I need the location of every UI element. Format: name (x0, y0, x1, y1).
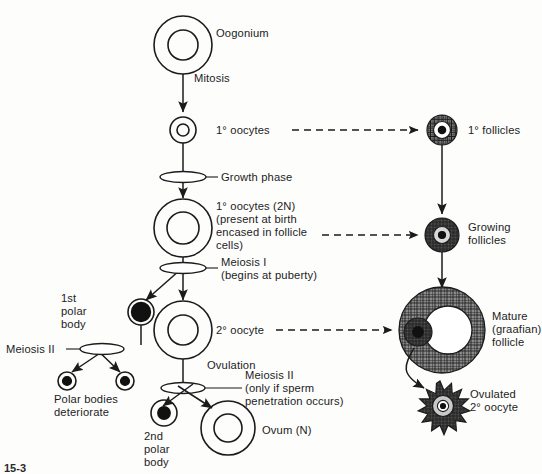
label-first-polar-body-line2: polar (61, 305, 87, 317)
cell-polar-body-deteriorating-2 (116, 372, 134, 390)
growing-follicle-nucleus (439, 232, 446, 239)
arrow-meiosis-1-to-polar-body (146, 270, 180, 300)
oogonium-nucleus (168, 30, 198, 60)
primary-oocyte-2n-nucleus (167, 212, 199, 244)
cell-polar-body-deteriorating-1 (58, 372, 76, 390)
label-meiosis-2-right-sub2: penetration occurs) (245, 395, 344, 407)
marker-growth-phase (160, 172, 206, 183)
secondary-oocyte-outer-membrane (154, 301, 212, 359)
label-second-polar-body-line2: polar (144, 443, 170, 455)
label-ovum: Ovum (N) (262, 424, 312, 436)
oogonium-outer-membrane (154, 16, 212, 74)
label-primary-oocyte-2n-line1: 1° oocytes (2N) (216, 200, 296, 212)
label-polar-bodies-deteriorate-line2: deteriorate (54, 406, 109, 418)
oogenesis-diagram-canvas: Oogonium Mitosis 1° oocytes Growth phase… (0, 0, 542, 474)
label-primary-follicles: 1° follicles (468, 124, 521, 136)
first-polar-body-core (132, 303, 151, 322)
figure-caption: 15-3 (4, 462, 26, 474)
label-second-polar-body-line1: 2nd (144, 430, 163, 442)
label-primary-oocyte-2n-line2: (present at birth (216, 213, 297, 225)
ovum-nucleus (214, 414, 242, 442)
label-growth-phase: Growth phase (221, 171, 292, 183)
cell-secondary-oocyte (154, 301, 212, 359)
marker-meiosis-2-left (80, 344, 124, 355)
cell-oogonium (154, 16, 212, 74)
label-polar-bodies-deteriorate-line1: Polar bodies (54, 393, 118, 405)
label-second-polar-body-line3: body (144, 456, 169, 468)
label-ovulated-oocyte-line2: 2° oocyte (470, 401, 518, 413)
label-ovulated-oocyte-line1: Ovulated (470, 388, 516, 400)
label-mitosis: Mitosis (194, 72, 230, 84)
cell-mature-graafian-follicle (399, 287, 485, 373)
label-meiosis-1: Meiosis I (221, 256, 267, 268)
cell-growing-follicle (425, 218, 459, 252)
cell-second-polar-body (151, 400, 177, 426)
label-growing-follicles-line1: Growing (468, 221, 511, 233)
ovum-outer-membrane (201, 401, 255, 455)
cell-primary-oocyte (170, 117, 196, 143)
label-meiosis-2-right: Meiosis II (245, 369, 294, 381)
label-meiosis-2-left: Meiosis II (6, 343, 55, 355)
label-first-polar-body-line3: body (61, 318, 86, 330)
label-secondary-oocyte: 2° oocyte (216, 324, 264, 336)
polar-body-1-core (63, 377, 72, 386)
label-first-polar-body-line1: 1st (61, 292, 77, 304)
cell-primary-follicle (427, 115, 457, 145)
polar-body-2-core (121, 377, 130, 386)
label-growing-follicles-line2: follicles (468, 234, 506, 246)
primary-oocyte-outer-membrane (170, 117, 196, 143)
oogenesis-figure: Oogonium Mitosis 1° oocytes Growth phase… (0, 0, 542, 474)
label-primary-oocyte-2n-line3: encased in follicle (216, 226, 307, 238)
label-mature-follicle-line3: follicle (492, 336, 524, 348)
primary-oocyte-nucleus (177, 124, 189, 136)
label-primary-oocyte-2n-line4: cells) (216, 239, 243, 251)
label-mature-follicle-line2: (graafian) (492, 323, 542, 335)
primary-follicle-nucleus (438, 126, 445, 133)
marker-meiosis-1 (160, 263, 206, 274)
mature-follicle-oocyte (413, 327, 423, 337)
second-polar-body-core (158, 407, 170, 419)
label-meiosis-2-right-sub1: (only if sperm (245, 382, 314, 394)
label-mature-follicle-line1: Mature (492, 310, 528, 322)
primary-oocyte-2n-outer-membrane (154, 199, 212, 257)
ovulated-oocyte-nucleus (441, 404, 446, 409)
label-oogonium: Oogonium (216, 27, 269, 39)
cell-first-polar-body (128, 299, 154, 325)
label-meiosis-1-sub: (begins at puberty) (221, 269, 317, 281)
cell-primary-oocyte-2n (154, 199, 212, 257)
secondary-oocyte-nucleus (168, 315, 198, 345)
label-primary-oocytes: 1° oocytes (216, 124, 270, 136)
cell-ovum (201, 401, 255, 455)
cell-ovulated-secondary-oocyte (418, 381, 470, 435)
